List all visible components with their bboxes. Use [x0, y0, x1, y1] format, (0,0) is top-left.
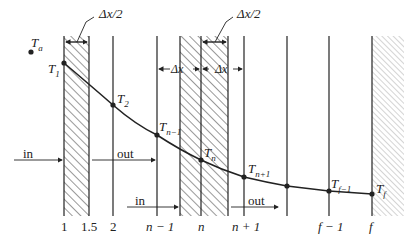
- node-label-t1: T1: [48, 62, 60, 75]
- half-dx-label-center: Δx/2: [237, 7, 261, 20]
- flow-out-label-1: out: [117, 147, 134, 160]
- axis-label-n-1: n − 1: [146, 220, 174, 233]
- axis-label-1-5: 1.5: [81, 220, 97, 233]
- axis-label-f: f: [369, 220, 373, 233]
- flow-in-label-2: in: [135, 194, 145, 207]
- axis-label-n: n: [198, 220, 205, 233]
- hatched-half-cell-1: [64, 36, 89, 216]
- flow-in-label-1: in: [23, 147, 33, 160]
- flow-out-label-2: out: [248, 194, 265, 207]
- diagram-graphics: [0, 0, 413, 245]
- node-label-tf-1: Tf−1: [331, 177, 351, 190]
- node-label-tn+1: Tn+1: [248, 162, 270, 175]
- node-label-tn: Tn: [204, 146, 216, 159]
- axis-label-n+1: n + 1: [232, 220, 260, 233]
- node-label-tf: Tf: [376, 182, 386, 195]
- node-label-t2: T2: [117, 92, 129, 105]
- node-label-tn-1: Tn−1: [159, 120, 181, 133]
- dx-label-right: Δx: [215, 63, 227, 75]
- half-dx-label-left: Δx/2: [99, 7, 123, 20]
- flow-arrows: [14, 160, 278, 207]
- axis-label-f-1: f − 1: [318, 220, 343, 233]
- axis-label-1: 1: [61, 220, 68, 233]
- ambient-temp-label: Ta: [31, 36, 43, 49]
- dx-label-left: Δx: [171, 63, 183, 75]
- finite-difference-diagram: Δx/2 Δx/2 Δx Δx Ta T1 T2 Tn−1 Tn Tn+1 Tf…: [0, 0, 413, 245]
- axis-label-2: 2: [110, 220, 117, 233]
